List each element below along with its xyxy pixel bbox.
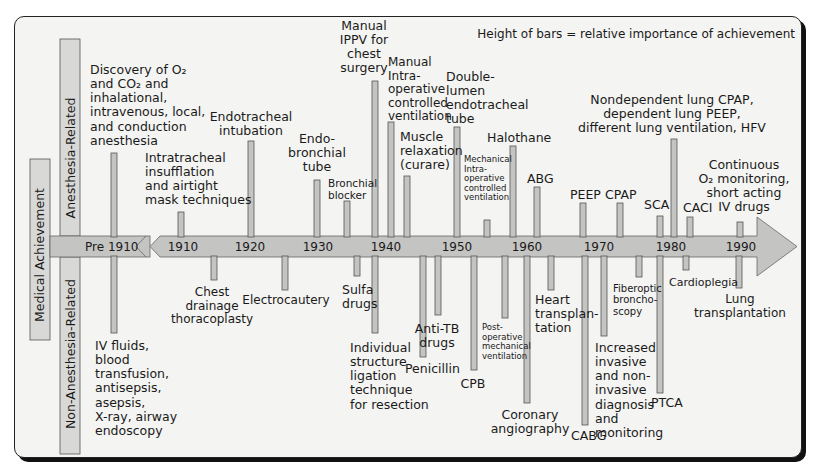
non-anesthesia-bar [211, 256, 217, 280]
non-anesthesia-bar [548, 256, 554, 290]
anesthesia-bar [534, 187, 540, 237]
achievement-label: Discovery of O₂and CO₂ andinhalational,i… [90, 62, 205, 148]
achievement-label: Coronaryangiography [491, 407, 570, 436]
achievement-label: ABG [527, 171, 554, 186]
axis-tick-label: 1970 [584, 240, 615, 254]
achievement-label: Hearttransplan-tation [535, 292, 599, 335]
achievement-label: Anti-TBdrugs [415, 321, 459, 350]
achievement-label: Musclerelaxation(curare) [400, 129, 463, 172]
anesthesia-bar [111, 153, 117, 237]
axis-tick-label: 1940 [371, 240, 402, 254]
achievement-label: Chestdrainagethoracoplasty [171, 285, 253, 326]
achievement-label: IV fluids,bloodtransfusion,antisepsis,as… [95, 338, 178, 438]
non-anesthesia-bar [683, 256, 689, 270]
achievement-label: Bronchialblocker [328, 177, 377, 201]
achievement-label: Cardioplegia [669, 276, 738, 289]
anesthesia-bar [248, 141, 254, 237]
achievement-label: Double-lumenendotrachealtube [446, 69, 529, 126]
achievement-label: ManualIPPV forchestsurgery [340, 18, 389, 75]
achievement-label: Halothane [487, 130, 552, 145]
non-anesthesia-bar [282, 256, 288, 290]
anesthesia-bar [580, 203, 586, 237]
achievement-label: Electrocautery [242, 293, 329, 307]
non-anesthesia-bar [601, 256, 607, 336]
anesthesia-bar [687, 217, 693, 237]
axis-pre-label: Pre 1910 [85, 240, 138, 254]
medical-achievement-label: Medical Achievement [32, 188, 47, 322]
anesthesia-bar [314, 180, 320, 237]
axis-tick-label: 1910 [168, 240, 199, 254]
non-anesthesia-bar [471, 256, 477, 370]
non-anesthesia-bar [354, 256, 360, 276]
achievement-label: MechanicalIntra-operativecontrolledventi… [464, 154, 512, 202]
axis-tick-label: 1990 [726, 240, 757, 254]
non-anesthesia-bar [524, 256, 530, 403]
timeline-chart: Medical Achievement Anesthesia-Related N… [0, 0, 823, 474]
non-anesthesia-related-label: Non-Anesthesia-Related [63, 279, 78, 429]
anesthesia-bar [484, 220, 490, 237]
non-anesthesia-bar [502, 256, 508, 318]
anesthesia-bar [372, 81, 378, 237]
achievement-label: ManualIntra-operativecontrolledventilati… [388, 55, 452, 123]
achievement-label: Endotrachealintubation [210, 109, 293, 138]
anesthesia-bar [344, 201, 350, 237]
anesthesia-bar [737, 222, 743, 237]
anesthesia-bar [617, 203, 623, 237]
achievement-label: Increasedinvasiveand non-invasivediagnos… [595, 340, 663, 440]
non-anesthesia-bar [582, 256, 588, 425]
anesthesia-bar [178, 212, 184, 237]
achievement-label: CACI [683, 200, 712, 215]
achievement-label: SCA [644, 197, 670, 212]
achievement-label: Sulfadrugs [342, 282, 377, 311]
axis-tick-label: 1980 [656, 240, 687, 254]
axis-tick-label: 1920 [235, 240, 266, 254]
achievement-label: CPB [461, 376, 486, 391]
achievement-labels: Discovery of O₂and CO₂ andinhalational,i… [90, 18, 790, 443]
achievement-label: Intratrachealinsufflationand airtightmas… [145, 150, 251, 207]
non-anesthesia-bar [111, 256, 117, 333]
anesthesia-bar [657, 216, 663, 237]
non-anesthesia-bar [657, 256, 663, 393]
achievement-label: Nondependent lung CPAP,dependent lung PE… [578, 92, 766, 135]
achievement-label: Lungtransplantation [694, 292, 786, 320]
axis-tick-label: 1960 [512, 240, 543, 254]
anesthesia-bar [671, 139, 677, 237]
achievement-label: PTCA [651, 395, 683, 410]
anesthesia-related-label: Anesthesia-Related [63, 98, 78, 219]
axis-tick-label: 1930 [303, 240, 334, 254]
achievement-label: CPAP [605, 187, 637, 202]
anesthesia-bar [388, 122, 394, 237]
achievement-label: Post-operativemechanicalventilation [482, 322, 531, 361]
legend-note: Height of bars = relative importance of … [477, 27, 795, 41]
non-anesthesia-bar [636, 256, 642, 277]
achievement-label: Endo-bronchialtube [288, 131, 346, 174]
achievement-label: Fiberopticbroncho-scopy [613, 283, 662, 317]
axis-ticks: 191019201930194019501960197019801990 [168, 240, 757, 254]
achievement-label: PEEP [570, 187, 601, 202]
non-anesthesia-bar [435, 256, 441, 315]
axis-tick-label: 1950 [442, 240, 473, 254]
achievement-label: Penicillin [405, 361, 460, 376]
anesthesia-bar [404, 176, 410, 237]
